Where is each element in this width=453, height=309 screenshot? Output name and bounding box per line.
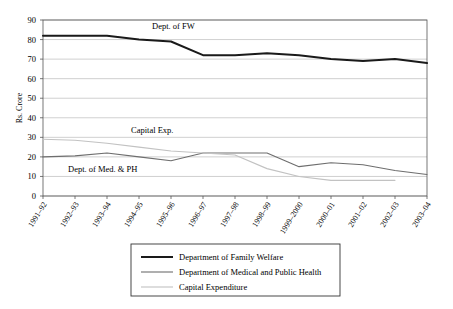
y-tick-label: 30: [28, 132, 37, 142]
series-line-2: [43, 139, 395, 180]
y-tick-label: 40: [28, 113, 37, 123]
line-chart: 0102030405060708090 1991–921992–931993–9…: [0, 0, 453, 309]
y-axis-title-text: Rs. Crore: [15, 92, 24, 123]
legend-label-0: Department of Family Welfare: [179, 252, 283, 262]
x-tick-label: 2002–03: [378, 200, 400, 229]
legend-label-2: Capital Expenditure: [179, 282, 247, 292]
x-tick-label: 1996–97: [186, 200, 208, 229]
y-tick-label: 0: [32, 191, 36, 201]
annotation-capital: Capital Exp.: [131, 125, 174, 135]
x-tick-label: 1995–96: [154, 200, 176, 229]
y-tick-label: 70: [28, 54, 37, 64]
x-tick-label: 1998–99: [250, 200, 272, 229]
x-tick-label: 2001–02: [346, 200, 368, 229]
annotation-fw: Dept. of FW: [152, 21, 195, 31]
y-tick-label: 60: [28, 74, 37, 84]
y-tick-label: 80: [28, 35, 37, 45]
y-tick-label: 10: [28, 171, 37, 181]
y-axis-title: Rs. Crore: [15, 92, 24, 123]
chart-legend: Department of Family WelfareDepartment o…: [131, 244, 340, 296]
data-series: [43, 36, 427, 181]
annotation-medph: Dept. of Med. & PH: [68, 164, 137, 174]
legend-label-1: Department of Medical and Public Health: [179, 267, 322, 277]
x-tick-label: 1992–93: [58, 200, 80, 229]
x-tick-label: 1993–94: [90, 200, 112, 229]
x-tick-label: 1991–92: [26, 200, 48, 229]
x-tick-label: 1999–2000: [278, 200, 305, 235]
x-axis-ticks: 1991–921992–931993–941994–951995–961996–…: [26, 196, 432, 236]
y-axis-ticks: 0102030405060708090: [28, 15, 44, 201]
x-tick-label: 2000–01: [314, 200, 336, 229]
y-tick-label: 20: [28, 152, 37, 162]
x-tick-label: 1994–95: [122, 200, 144, 229]
x-tick-label: 1997–98: [218, 200, 240, 229]
chart-canvas: 0102030405060708090 1991–921992–931993–9…: [0, 0, 453, 309]
x-tick-label: 2003–04: [410, 200, 432, 229]
y-tick-label: 50: [28, 93, 37, 103]
y-tick-label: 90: [28, 15, 37, 25]
